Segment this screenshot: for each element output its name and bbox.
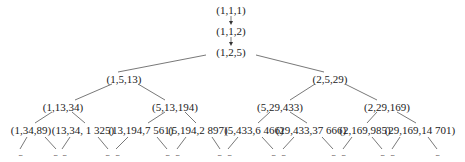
tree-node: (29,433,37 666) bbox=[276, 124, 347, 136]
ellipsis-marker: ... bbox=[271, 149, 275, 158]
tree-node: (1,2,5) bbox=[216, 46, 245, 58]
tree-node: (13,34, 1 325) bbox=[52, 124, 114, 136]
tree-node: (2,29,169) bbox=[364, 101, 410, 113]
edge-n7-n13 bbox=[258, 112, 270, 123]
edge-n4-n7 bbox=[290, 84, 315, 100]
edge-n4-n8 bbox=[345, 84, 377, 100]
ellipsis-marker: ... bbox=[281, 149, 285, 158]
edge-n2-n4 bbox=[256, 55, 324, 72]
tree-node: (1,1,2) bbox=[216, 25, 245, 37]
tree-diagram: (1,1,1) (1,1,2) (1,2,5) (1,5,13) (2,5,29… bbox=[0, 0, 465, 162]
tree-node: (13,194,7 561) bbox=[108, 124, 173, 136]
ellipsis-marker: ... bbox=[53, 149, 57, 158]
tree-node: (2,5,29) bbox=[313, 73, 348, 85]
edge-n3-n6 bbox=[138, 84, 165, 100]
ellipsis-marker: ... bbox=[217, 149, 221, 158]
ellipsis-marker: ... bbox=[227, 149, 231, 158]
edge-n8-n16 bbox=[397, 112, 416, 123]
edge-n6-n12 bbox=[185, 112, 196, 123]
edge-n6-n11 bbox=[148, 112, 165, 123]
ellipsis-marker: ... bbox=[175, 149, 179, 158]
edge-n7-n14 bbox=[290, 112, 307, 123]
tree-node: (1,13,34) bbox=[43, 101, 83, 113]
edge-n2-n3 bbox=[118, 55, 206, 72]
ellipsis-marker: ... bbox=[62, 149, 66, 158]
ellipsis-marker: ... bbox=[331, 149, 335, 158]
tree-node: (1,5,13) bbox=[107, 73, 142, 85]
edge-n8-n15 bbox=[367, 112, 377, 123]
tree-node: (2,169,985) bbox=[339, 124, 390, 136]
tree-node: (5,29,433) bbox=[257, 101, 303, 113]
ellipsis-marker: ... bbox=[435, 149, 439, 158]
tree-node: (29,169,14 701) bbox=[385, 124, 456, 136]
ellipsis-marker: ... bbox=[165, 149, 169, 158]
ellipsis-marker: ... bbox=[115, 149, 119, 158]
ellipsis-marker: ... bbox=[390, 149, 394, 158]
ellipsis-marker: ... bbox=[380, 149, 384, 158]
tree-node: (1,1,1) bbox=[216, 4, 245, 16]
ellipsis-marker: ... bbox=[341, 149, 345, 158]
ellipsis-marker: ... bbox=[18, 149, 22, 158]
edge-n5-n10 bbox=[72, 112, 85, 123]
tree-node: (5,13,194) bbox=[152, 101, 198, 113]
edge-n5-n9 bbox=[35, 112, 52, 123]
tree-node: (1,34,89) bbox=[11, 124, 51, 136]
ellipsis-marker: ... bbox=[105, 149, 109, 158]
tree-node: (5,194,2 897) bbox=[168, 124, 228, 136]
edge-n3-n5 bbox=[75, 84, 112, 100]
